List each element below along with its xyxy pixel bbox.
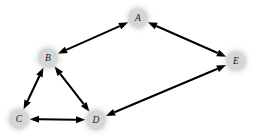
arrow-head-icon [36,67,43,77]
arrow-head-icon [106,109,116,116]
node-label: A [134,13,141,23]
edges-layer [24,22,227,123]
node-label: C [16,114,23,124]
graph-edge-b-d [54,66,89,111]
graph-edge-d-e [106,65,227,116]
node-label: B [45,53,51,63]
graph-edge-a-b [58,22,129,53]
graph-node-e[interactable]: E [224,49,247,72]
arrow-head-icon [216,50,226,57]
graph-node-a[interactable]: A [126,6,149,29]
arrow-head-icon [58,47,68,54]
arrow-head-icon [30,116,40,123]
node-label: E [232,56,239,66]
graph-node-d[interactable]: D [84,108,107,131]
graph-edge-b-c [24,67,44,109]
arrow-head-icon [216,65,226,72]
nodes-layer: ABCDE [7,6,247,131]
arrow-head-icon [76,116,86,123]
graph-canvas: ABCDE [0,0,255,137]
graph-node-c[interactable]: C [7,107,30,130]
graph-diagram: ABCDE [0,0,255,137]
arrow-head-icon [148,22,158,29]
graph-edge-c-d [30,116,86,123]
graph-edge-a-e [148,22,227,57]
arrow-head-icon [24,99,31,109]
arrow-head-icon [118,22,128,29]
graph-node-b[interactable]: B [36,46,59,69]
node-label: D [92,115,100,125]
